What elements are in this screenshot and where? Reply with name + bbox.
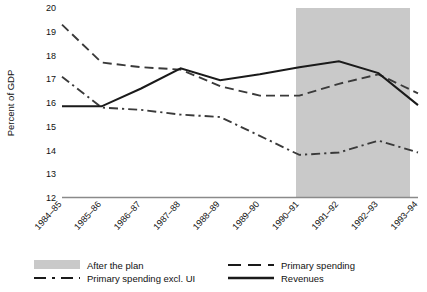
x-axis-tick-labels: 1984–851985–861986–871987–881988–891989–…	[33, 199, 420, 232]
y-tick-label: 20	[46, 3, 56, 13]
x-tick-label: 1990–91	[270, 199, 301, 232]
x-tick-label: 1992–93	[349, 199, 380, 232]
y-axis-tick-labels: 201918171615141312	[46, 3, 56, 203]
x-tick-label: 1985–86	[72, 199, 103, 232]
x-tick-label: 1989–90	[230, 199, 261, 232]
x-tick-label: 1987–88	[151, 199, 182, 232]
y-tick-label: 16	[46, 98, 56, 108]
y-tick-label: 17	[46, 74, 56, 84]
x-tick-label: 1986–87	[112, 199, 143, 232]
x-tick-label: 1988–89	[191, 199, 222, 232]
y-tick-label: 13	[46, 169, 56, 179]
line-chart: 201918171615141312 Percent of GDP 1984–8…	[0, 0, 427, 292]
y-tick-label: 19	[46, 27, 56, 37]
x-tick-label: 1984–85	[33, 199, 64, 232]
y-tick-label: 18	[46, 51, 56, 61]
y-tick-label: 14	[46, 146, 56, 156]
shaded-region-after-the-plan	[296, 8, 410, 197]
y-axis-title: Percent of GDP	[5, 70, 16, 137]
y-tick-label: 15	[46, 122, 56, 132]
x-tick-label: 1991–92	[309, 199, 340, 232]
x-tick-label: 1993–94	[389, 199, 420, 232]
chart-container: 201918171615141312 Percent of GDP 1984–8…	[0, 0, 427, 292]
